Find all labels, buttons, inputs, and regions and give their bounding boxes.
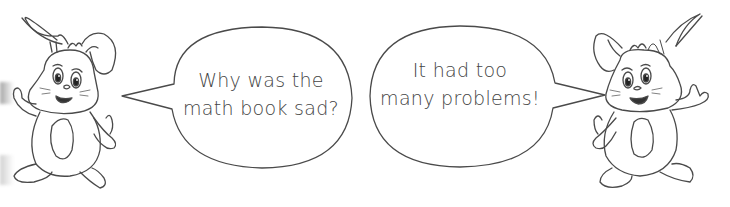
right-bunny-illustration — [593, 14, 708, 187]
right-bubble-text: It had too many problems! — [380, 56, 540, 112]
left-bunny-illustration — [14, 18, 116, 189]
comic-scene — [0, 0, 730, 207]
left-bubble-line-1: Why was the — [182, 66, 340, 94]
right-bubble-line-1: It had too — [380, 56, 540, 84]
right-bubble-line-2: many problems! — [380, 84, 540, 112]
left-bubble-text: Why was the math book sad? — [182, 66, 340, 122]
left-bubble-line-2: math book sad? — [182, 94, 340, 122]
